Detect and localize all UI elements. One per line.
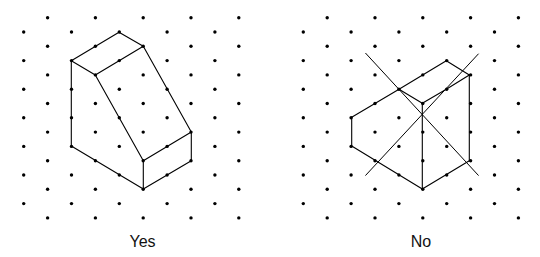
grid-dot bbox=[493, 173, 496, 176]
grid-dot bbox=[397, 116, 400, 119]
grid-dot bbox=[517, 130, 520, 133]
grid-dot bbox=[189, 216, 192, 219]
grid-dot bbox=[326, 73, 329, 76]
isometric-dot-grid bbox=[302, 16, 521, 220]
grid-dot bbox=[326, 130, 329, 133]
grid-dot bbox=[46, 16, 49, 19]
grid-dot bbox=[189, 188, 192, 191]
edge-line bbox=[119, 32, 143, 46]
grid-dot bbox=[326, 188, 329, 191]
grid-dot bbox=[326, 102, 329, 105]
grid-dot bbox=[445, 202, 448, 205]
isometric-comparison-diagram bbox=[0, 0, 540, 257]
grid-dot bbox=[189, 102, 192, 105]
grid-dot bbox=[237, 130, 240, 133]
grid-dot bbox=[302, 59, 305, 62]
grid-dot bbox=[70, 173, 73, 176]
grid-dot bbox=[94, 216, 97, 219]
grid-dot bbox=[326, 159, 329, 162]
grid-dot bbox=[469, 16, 472, 19]
grid-dot bbox=[213, 202, 216, 205]
grid-dot bbox=[22, 59, 25, 62]
edge-line bbox=[352, 89, 399, 117]
edge-line bbox=[143, 132, 191, 161]
caption-yes: Yes bbox=[129, 232, 155, 252]
grid-dot bbox=[373, 130, 376, 133]
grid-dot bbox=[517, 16, 520, 19]
grid-dot bbox=[94, 16, 97, 19]
grid-dot bbox=[445, 30, 448, 33]
grid-dot bbox=[165, 116, 168, 119]
grid-dot bbox=[142, 73, 145, 76]
grid-dot bbox=[237, 102, 240, 105]
grid-dot bbox=[46, 188, 49, 191]
grid-dot bbox=[118, 145, 121, 148]
grid-dot bbox=[397, 59, 400, 62]
grid-dot bbox=[237, 188, 240, 191]
grid-dot bbox=[517, 45, 520, 48]
grid-dot bbox=[165, 30, 168, 33]
edge-line bbox=[71, 32, 119, 60]
grid-dot bbox=[326, 216, 329, 219]
grid-dot bbox=[349, 88, 352, 91]
panel-no-incorrect-drawing bbox=[302, 16, 521, 220]
grid-dot bbox=[469, 188, 472, 191]
grid-dot bbox=[397, 202, 400, 205]
edge-line bbox=[399, 61, 446, 90]
grid-dot bbox=[213, 116, 216, 119]
grid-dot bbox=[493, 59, 496, 62]
grid-dot bbox=[493, 88, 496, 91]
grid-dot bbox=[517, 188, 520, 191]
grid-dot bbox=[165, 202, 168, 205]
grid-dot bbox=[517, 102, 520, 105]
edge-line bbox=[143, 161, 191, 189]
grid-dot bbox=[445, 145, 448, 148]
grid-dot bbox=[213, 30, 216, 33]
grid-dot bbox=[70, 30, 73, 33]
panel-yes-correct-drawing bbox=[22, 16, 241, 220]
grid-dot bbox=[421, 16, 424, 19]
grid-dot bbox=[118, 88, 121, 91]
grid-dot bbox=[189, 73, 192, 76]
grid-dot bbox=[373, 45, 376, 48]
grid-dot bbox=[421, 45, 424, 48]
grid-dot bbox=[94, 188, 97, 191]
grid-dot bbox=[94, 102, 97, 105]
grid-dot bbox=[373, 16, 376, 19]
grid-dot bbox=[22, 30, 25, 33]
block-edges bbox=[71, 32, 191, 189]
edge-line bbox=[422, 161, 469, 189]
grid-dot bbox=[302, 116, 305, 119]
grid-dot bbox=[469, 216, 472, 219]
grid-dot bbox=[373, 216, 376, 219]
grid-dot bbox=[189, 45, 192, 48]
caption-no: No bbox=[411, 232, 431, 252]
grid-dot bbox=[349, 30, 352, 33]
grid-dot bbox=[237, 73, 240, 76]
block-edges bbox=[352, 61, 470, 189]
grid-dot bbox=[22, 116, 25, 119]
isometric-dot-grid bbox=[22, 16, 241, 220]
grid-dot bbox=[493, 145, 496, 148]
grid-dot bbox=[326, 16, 329, 19]
grid-dot bbox=[189, 16, 192, 19]
grid-dot bbox=[302, 88, 305, 91]
grid-dot bbox=[94, 130, 97, 133]
grid-dot bbox=[302, 202, 305, 205]
grid-dot bbox=[302, 173, 305, 176]
grid-dot bbox=[46, 102, 49, 105]
grid-dot bbox=[493, 30, 496, 33]
grid-dot bbox=[237, 159, 240, 162]
edge-line bbox=[71, 146, 143, 189]
grid-dot bbox=[22, 88, 25, 91]
grid-dot bbox=[397, 145, 400, 148]
edge-line bbox=[446, 75, 469, 89]
grid-dot bbox=[142, 216, 145, 219]
grid-dot bbox=[373, 73, 376, 76]
grid-dot bbox=[165, 59, 168, 62]
grid-dot bbox=[142, 16, 145, 19]
grid-dot bbox=[213, 59, 216, 62]
grid-dot bbox=[493, 116, 496, 119]
grid-dot bbox=[302, 30, 305, 33]
grid-dot bbox=[237, 216, 240, 219]
